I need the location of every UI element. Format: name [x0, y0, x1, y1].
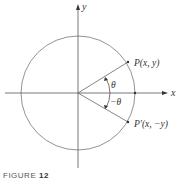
neg-theta-label: −θ: [110, 97, 121, 107]
unit-circle-diagram: y x P(x, y) P′(x, −y) θ −θ: [0, 0, 181, 179]
radius-to-p: [78, 62, 128, 93]
point-p-label: P(x, y): [133, 58, 159, 69]
caption-prefix: FIGURE: [3, 171, 36, 179]
caption-number: 12: [39, 171, 49, 179]
point-p: [127, 61, 129, 63]
y-axis-arrow-icon: [76, 4, 80, 10]
point-p-prime-label: P′(x, −y): [133, 119, 168, 130]
point-p-prime: [127, 121, 129, 123]
y-axis-label: y: [81, 1, 87, 12]
point-x-intercept: [134, 92, 136, 94]
x-axis-label: x: [170, 87, 176, 98]
theta-label: θ: [111, 80, 116, 90]
x-axis-arrow-icon: [162, 91, 168, 95]
figure-caption: FIGURE 12: [3, 171, 49, 179]
